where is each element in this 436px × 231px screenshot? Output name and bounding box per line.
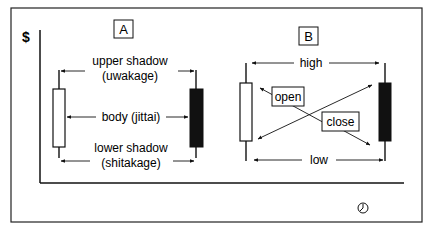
low-label: low [310,153,328,167]
panel-a-label: A [119,22,128,37]
candlestick-anatomy-diagram: $ A upper shadow (uwakage) body (jittai) [0,0,436,231]
bearish-candle-a [190,70,203,158]
y-axis-label: $ [22,29,30,45]
high-label: high [300,56,323,70]
bearish-candle-b [379,63,391,161]
lower-shadow-jp-label: (shitakage) [101,156,160,170]
panel-b: B high low open close [240,27,391,167]
bullish-candle-b [240,63,252,161]
panel-a: A upper shadow (uwakage) body (jittai) l… [53,20,203,170]
panel-b-label: B [304,29,313,44]
upper-shadow-jp-label: (uwakage) [102,69,158,83]
bullish-candle-a [53,70,65,158]
lower-shadow-label: lower shadow [94,141,168,155]
upper-shadow-label: upper shadow [92,54,168,68]
close-label: close [326,115,354,129]
body-label: body (jittai) [102,110,161,124]
clock-icon [358,203,368,213]
open-label: open [275,90,302,104]
outer-frame [11,8,422,222]
